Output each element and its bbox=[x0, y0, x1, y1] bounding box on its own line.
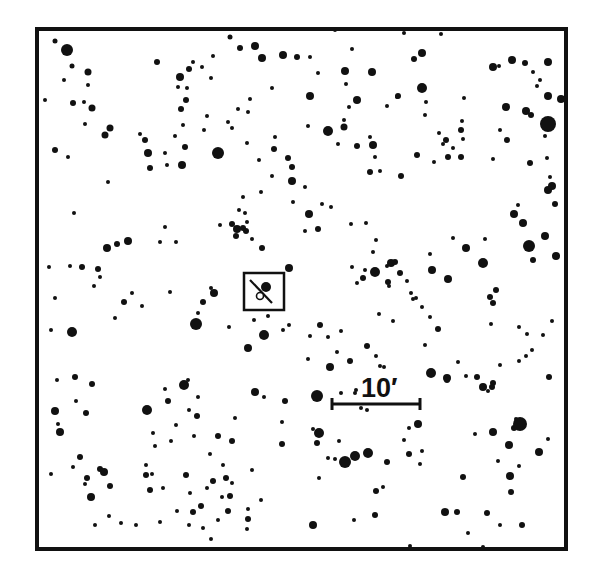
star bbox=[211, 54, 215, 58]
star bbox=[233, 416, 237, 420]
star bbox=[246, 507, 250, 511]
star bbox=[82, 100, 86, 104]
star bbox=[460, 474, 466, 480]
star bbox=[484, 510, 490, 516]
star bbox=[188, 491, 192, 495]
star bbox=[371, 250, 375, 254]
star bbox=[461, 137, 465, 141]
star bbox=[236, 107, 240, 111]
target-position-circle bbox=[257, 293, 264, 300]
star bbox=[510, 210, 518, 218]
star bbox=[285, 264, 293, 272]
star bbox=[228, 35, 233, 40]
star bbox=[56, 422, 60, 426]
star bbox=[84, 475, 90, 481]
star bbox=[233, 225, 241, 233]
star bbox=[215, 433, 221, 439]
star bbox=[339, 456, 351, 468]
star bbox=[387, 284, 391, 288]
star bbox=[198, 503, 204, 509]
star bbox=[462, 96, 466, 100]
star bbox=[209, 76, 213, 80]
star bbox=[368, 68, 376, 76]
star bbox=[464, 374, 468, 378]
star bbox=[372, 512, 378, 518]
star bbox=[200, 299, 206, 305]
star bbox=[227, 325, 231, 329]
star bbox=[282, 398, 288, 404]
star bbox=[420, 449, 424, 453]
star bbox=[106, 180, 110, 184]
star bbox=[496, 459, 500, 463]
star bbox=[270, 174, 274, 178]
star bbox=[107, 125, 114, 132]
star bbox=[185, 86, 189, 90]
star bbox=[514, 417, 518, 421]
star bbox=[373, 488, 379, 494]
star bbox=[444, 377, 450, 383]
star bbox=[339, 329, 343, 333]
star bbox=[350, 47, 354, 51]
star bbox=[70, 100, 76, 106]
star bbox=[196, 311, 200, 315]
star bbox=[417, 83, 427, 93]
star bbox=[545, 156, 549, 160]
star bbox=[154, 59, 160, 65]
star bbox=[364, 221, 368, 225]
star bbox=[230, 481, 234, 485]
star bbox=[259, 330, 269, 340]
star bbox=[285, 155, 291, 161]
star bbox=[250, 237, 254, 241]
star bbox=[151, 431, 155, 435]
star bbox=[147, 165, 153, 171]
star bbox=[311, 427, 315, 431]
star bbox=[377, 312, 381, 316]
star bbox=[402, 438, 406, 442]
star bbox=[541, 232, 549, 240]
star bbox=[241, 195, 245, 199]
star bbox=[281, 328, 285, 332]
star bbox=[314, 440, 320, 446]
star bbox=[519, 219, 527, 227]
star bbox=[491, 157, 495, 161]
star bbox=[95, 266, 101, 272]
star bbox=[557, 95, 565, 103]
star bbox=[113, 316, 117, 320]
star bbox=[208, 452, 212, 456]
star bbox=[474, 374, 480, 380]
star bbox=[190, 318, 202, 330]
star bbox=[72, 211, 76, 215]
star bbox=[107, 483, 113, 489]
star bbox=[175, 509, 179, 513]
star bbox=[158, 240, 162, 244]
star bbox=[89, 105, 96, 112]
star bbox=[344, 82, 348, 86]
star bbox=[259, 498, 263, 502]
star bbox=[543, 134, 547, 138]
star bbox=[100, 468, 108, 476]
star bbox=[317, 322, 323, 328]
star bbox=[535, 84, 539, 88]
star bbox=[287, 323, 291, 327]
star bbox=[303, 229, 307, 233]
star bbox=[257, 158, 261, 162]
star bbox=[74, 399, 78, 403]
star bbox=[516, 203, 520, 207]
star bbox=[483, 237, 487, 241]
star bbox=[229, 221, 235, 227]
star bbox=[147, 487, 153, 493]
star bbox=[489, 428, 497, 436]
star bbox=[305, 210, 313, 218]
star bbox=[535, 448, 543, 456]
star bbox=[53, 39, 58, 44]
star bbox=[187, 523, 191, 527]
star bbox=[248, 97, 252, 101]
star bbox=[237, 208, 241, 212]
star bbox=[423, 113, 427, 117]
star bbox=[552, 252, 560, 260]
star bbox=[523, 240, 535, 252]
star bbox=[548, 175, 552, 179]
star bbox=[504, 137, 510, 143]
star bbox=[229, 438, 235, 444]
star bbox=[245, 220, 249, 224]
